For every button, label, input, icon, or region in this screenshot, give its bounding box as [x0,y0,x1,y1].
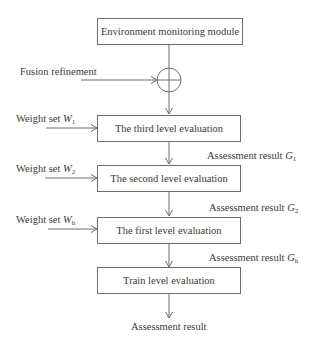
label-fusion-refinement: Fusion refinement [20,66,97,77]
label-assessment-gh: Assessment result Gh [209,252,298,265]
node-label: The third level evaluation [115,123,223,134]
node-label: The second level evaluation [110,173,228,184]
label-final-assessment: Assessment result [131,321,207,332]
label-weight-set-w1: Weight set W1 [16,113,75,126]
label-weight-set-wh: Weight set Wh [16,214,75,227]
label-weight-set-w2: Weight set W2 [16,163,75,176]
node-third-level: The third level evaluation [97,115,241,142]
node-environment-monitoring: Environment monitoring module [97,18,243,45]
label-assessment-g1: Assessment result G1 [207,150,296,163]
node-train-level: Train level evaluation [97,267,241,294]
node-second-level: The second level evaluation [97,165,241,192]
node-label: The first level evaluation [116,225,221,236]
label-assessment-g2: Assessment result G2 [209,202,298,215]
node-label: Train level evaluation [123,275,215,286]
node-first-level: The first level evaluation [97,217,241,244]
flowchart-canvas: Environment monitoring module Fusion ref… [0,0,314,343]
node-label: Environment monitoring module [101,26,239,37]
